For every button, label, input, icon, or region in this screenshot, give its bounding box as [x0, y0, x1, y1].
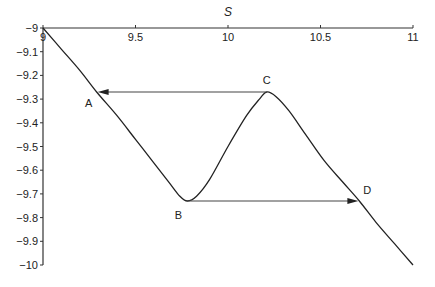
x-tick-label: 10.5: [310, 31, 331, 43]
point-label-C: C: [263, 74, 271, 86]
y-tick-label: −9.1: [16, 46, 38, 58]
point-labels: ABCD: [85, 74, 371, 221]
arrowhead-icon: [347, 198, 358, 204]
point-label-D: D: [363, 184, 371, 196]
x-tick-label: 11: [407, 31, 418, 43]
y-tick-label: −9: [25, 22, 38, 34]
chart: 99.51010.511−9−9.1−9.2−9.3−9.4−9.5−9.6−9…: [0, 0, 435, 287]
y-tick-label: −9.3: [16, 93, 38, 105]
y-tick-label: −9.9: [16, 235, 38, 247]
y-tick-label: −9.4: [16, 117, 38, 129]
axes: 99.51010.511−9−9.1−9.2−9.3−9.4−9.5−9.6−9…: [16, 5, 418, 271]
point-label-B: B: [175, 209, 182, 221]
y-tick-label: −9.7: [16, 188, 38, 200]
curve-line: [43, 28, 413, 265]
y-tick-label: −10: [19, 259, 38, 271]
point-label-A: A: [85, 97, 93, 109]
arrowhead-icon: [98, 89, 109, 95]
y-tick-label: −9.5: [16, 141, 38, 153]
y-tick-label: −9.6: [16, 164, 38, 176]
curve: [43, 28, 413, 265]
x-tick-label: 9.5: [128, 31, 143, 43]
y-tick-label: −9.8: [16, 212, 38, 224]
y-tick-label: −9.2: [16, 69, 38, 81]
x-tick-label: 10: [222, 31, 234, 43]
x-tick-label: 9: [40, 31, 46, 43]
x-axis-title: S: [224, 5, 232, 19]
